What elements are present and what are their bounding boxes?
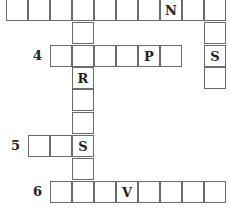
cell-top-10[interactable] bbox=[204, 0, 226, 21]
cell-right-down-2[interactable] bbox=[204, 22, 226, 44]
cell-across6-1[interactable] bbox=[50, 181, 72, 203]
cell-across6-4[interactable]: V bbox=[116, 181, 138, 203]
cell-across4-1[interactable] bbox=[50, 45, 72, 67]
cell-across4-5[interactable]: P bbox=[138, 45, 160, 67]
cell-top-4[interactable] bbox=[72, 0, 94, 21]
cell-across4-3[interactable] bbox=[94, 45, 116, 67]
cell-down-5[interactable] bbox=[72, 89, 94, 111]
cell-across6-6[interactable] bbox=[160, 181, 182, 203]
cell-across6-3[interactable] bbox=[94, 181, 116, 203]
cell-across5-1[interactable] bbox=[28, 135, 50, 157]
cell-top-8[interactable]: N bbox=[160, 0, 182, 21]
cell-top-3[interactable] bbox=[50, 0, 72, 21]
cell-top-7[interactable] bbox=[138, 0, 160, 21]
cell-down-6[interactable] bbox=[72, 112, 94, 134]
cell-top-2[interactable] bbox=[28, 0, 50, 21]
cell-right-down-3[interactable]: S bbox=[204, 45, 226, 67]
cell-down-8[interactable] bbox=[72, 158, 94, 180]
cell-down-4[interactable]: R bbox=[72, 67, 94, 89]
cell-top-9[interactable] bbox=[182, 0, 204, 21]
clue-number-5: 5 bbox=[6, 135, 20, 157]
cell-across6-5[interactable] bbox=[138, 181, 160, 203]
cell-across6-2[interactable] bbox=[72, 181, 94, 203]
cell-across4-4[interactable] bbox=[116, 45, 138, 67]
cell-top-5[interactable] bbox=[94, 0, 116, 21]
cell-down-2[interactable] bbox=[72, 22, 94, 44]
cell-right-down-4[interactable] bbox=[204, 67, 226, 89]
cell-across6-7[interactable] bbox=[182, 181, 204, 203]
cell-top-6[interactable] bbox=[116, 0, 138, 21]
cell-across5-2[interactable] bbox=[50, 135, 72, 157]
cell-across6-8[interactable] bbox=[204, 181, 226, 203]
cell-top-1[interactable] bbox=[6, 0, 28, 21]
cell-across5-3[interactable]: S bbox=[72, 135, 94, 157]
cell-across4-6[interactable] bbox=[160, 45, 182, 67]
cell-across4-2[interactable] bbox=[72, 45, 94, 67]
clue-number-6: 6 bbox=[28, 181, 42, 203]
clue-number-4: 4 bbox=[28, 45, 42, 67]
